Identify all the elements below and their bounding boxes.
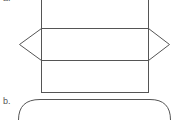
net-outer-rectangle [42, 0, 149, 93]
rounded-shape [19, 100, 171, 121]
net-left-triangle [20, 29, 42, 61]
net-right-triangle [149, 29, 170, 61]
part-b-label: b. [3, 96, 11, 106]
net-diagram [0, 0, 171, 120]
